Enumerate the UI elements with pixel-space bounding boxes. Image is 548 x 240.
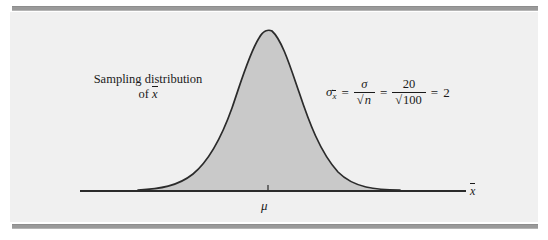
overbar (152, 86, 158, 87)
formula-fraction-20-over-root-100: 20 √100 (392, 78, 426, 107)
standard-error-formula: σx = σ √n = 20 √100 = 2 (326, 78, 450, 107)
caption-line-2: of x (78, 87, 218, 102)
mu-axis-label: μ (261, 198, 268, 214)
overbar (332, 90, 336, 91)
fraction-denominator-root-n: √n (354, 92, 375, 107)
bottom-divider-rule (12, 224, 538, 229)
caption-line-1: Sampling distribution (78, 72, 218, 87)
caption-of-word: of (138, 87, 148, 101)
fraction-denominator-root-100: √100 (392, 92, 426, 107)
formula-fraction-sigma-over-root-n: σ √n (354, 78, 375, 107)
fraction-numerator-20: 20 (400, 78, 419, 92)
formula-lhs-subscript: x (332, 91, 336, 101)
xbar-symbol: x (470, 184, 475, 199)
caption-xbar-symbol: x (152, 87, 158, 102)
normal-curve-shaded-area (138, 30, 400, 191)
formula-equals-3: = (431, 85, 438, 101)
caption-text: Sampling distribution of x (78, 72, 218, 102)
xbar-axis-label: x (470, 184, 475, 199)
overbar (470, 183, 475, 184)
fraction-numerator-sigma: σ (358, 78, 370, 92)
figure-root: Sampling distribution of x σx = σ √n = 2… (0, 0, 548, 240)
formula-lhs: σx (326, 84, 336, 101)
distribution-plot (0, 0, 548, 240)
formula-equals-2: = (380, 85, 387, 101)
formula-equals-1: = (341, 85, 348, 101)
formula-result: 2 (443, 85, 450, 101)
